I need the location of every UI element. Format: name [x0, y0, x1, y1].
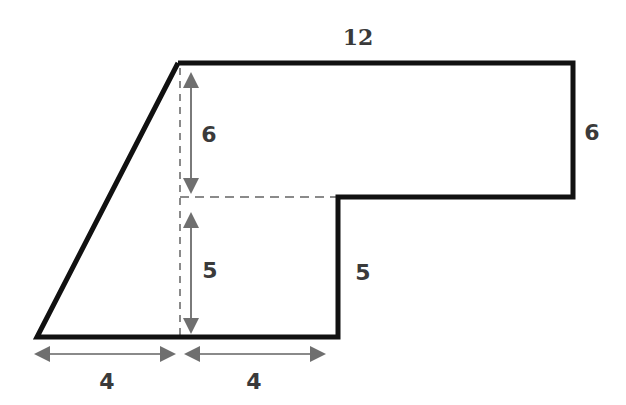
bottom-right-width-label: 4 [246, 369, 261, 394]
step-height-label: 5 [355, 260, 370, 285]
top-width-label: 12 [343, 24, 374, 50]
composite-shape-diagram: 12 6 6 5 5 4 4 [0, 0, 626, 405]
right-height-label: 6 [584, 120, 599, 145]
inner-lower-height-label: 5 [202, 258, 217, 283]
inner-upper-height-label: 6 [201, 122, 216, 147]
bottom-left-width-label: 4 [99, 369, 114, 394]
shape-outline [37, 63, 573, 337]
